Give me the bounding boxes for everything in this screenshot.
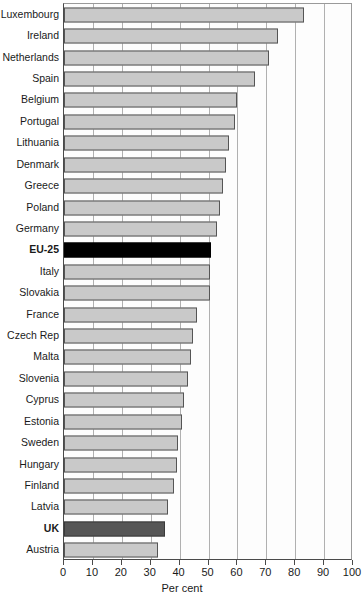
bar-row	[64, 368, 351, 389]
category-label-greece: Greece	[25, 179, 59, 191]
bar-row	[64, 390, 351, 411]
category-label-belgium: Belgium	[21, 93, 59, 105]
bar-rows	[64, 4, 351, 559]
tick-mark-80	[294, 560, 295, 565]
tick-mark-100	[352, 560, 353, 565]
bar-ireland	[64, 29, 278, 44]
bar-lithuania	[64, 136, 229, 151]
tick-mark-90	[323, 560, 324, 565]
tick-mark-30	[150, 560, 151, 565]
bar-row	[64, 133, 351, 154]
bar-row	[64, 197, 351, 218]
category-label-netherlands: Netherlands	[2, 51, 59, 63]
bar-row	[64, 154, 351, 175]
plot-area	[63, 3, 352, 560]
category-label-spain: Spain	[32, 72, 59, 84]
tick-label-100: 100	[343, 566, 361, 578]
tick-label-0: 0	[60, 566, 66, 578]
bar-row	[64, 240, 351, 261]
bar-row	[64, 261, 351, 282]
category-label-sweden: Sweden	[21, 436, 59, 448]
category-label-slovenia: Slovenia	[19, 372, 59, 384]
tick-label-30: 30	[144, 566, 156, 578]
bar-greece	[64, 179, 223, 194]
category-label-ireland: Ireland	[27, 29, 59, 41]
bar-france	[64, 307, 197, 322]
category-label-czech-rep: Czech Rep	[7, 329, 59, 341]
category-label-estonia: Estonia	[24, 415, 59, 427]
category-label-hungary: Hungary	[19, 458, 59, 470]
bar-belgium	[64, 93, 237, 108]
tick-label-60: 60	[230, 566, 242, 578]
bar-row	[64, 475, 351, 496]
bar-row	[64, 68, 351, 89]
category-label-germany: Germany	[16, 222, 59, 234]
bar-row	[64, 283, 351, 304]
bar-eu-25	[64, 243, 211, 258]
bar-estonia	[64, 414, 182, 429]
bar-slovakia	[64, 286, 210, 301]
category-label-latvia: Latvia	[31, 500, 59, 512]
tick-mark-40	[179, 560, 180, 565]
category-axis-labels: LuxembourgIrelandNetherlandsSpainBelgium…	[0, 3, 61, 560]
category-label-poland: Poland	[26, 201, 59, 213]
category-label-italy: Italy	[40, 265, 59, 277]
tick-mark-10	[92, 560, 93, 565]
tick-label-10: 10	[86, 566, 98, 578]
category-label-finland: Finland	[25, 479, 59, 491]
bar-row	[64, 497, 351, 518]
bar-uk	[64, 521, 165, 536]
bar-row	[64, 432, 351, 453]
bar-row	[64, 325, 351, 346]
bar-germany	[64, 221, 217, 236]
tick-mark-20	[121, 560, 122, 565]
bar-row	[64, 175, 351, 196]
bar-row	[64, 411, 351, 432]
bar-malta	[64, 350, 191, 365]
bar-portugal	[64, 114, 235, 129]
bar-hungary	[64, 457, 177, 472]
bar-poland	[64, 200, 220, 215]
bar-luxembourg	[64, 7, 304, 22]
tick-mark-50	[208, 560, 209, 565]
tick-label-20: 20	[115, 566, 127, 578]
tick-mark-60	[236, 560, 237, 565]
bar-czech-rep	[64, 329, 193, 344]
bar-slovenia	[64, 371, 188, 386]
category-label-portugal: Portugal	[20, 115, 59, 127]
bar-row	[64, 347, 351, 368]
bar-cyprus	[64, 393, 184, 408]
category-label-slovakia: Slovakia	[19, 286, 59, 298]
category-label-austria: Austria	[26, 543, 59, 555]
category-label-france: France	[26, 308, 59, 320]
bar-row	[64, 518, 351, 539]
tick-label-90: 90	[317, 566, 329, 578]
bar-row	[64, 454, 351, 475]
bar-row	[64, 90, 351, 111]
tick-label-70: 70	[259, 566, 271, 578]
tick-mark-70	[265, 560, 266, 565]
bar-latvia	[64, 500, 168, 515]
category-label-malta: Malta	[33, 350, 59, 362]
bar-row	[64, 111, 351, 132]
bar-row	[64, 4, 351, 25]
category-label-denmark: Denmark	[16, 158, 59, 170]
tick-label-80: 80	[288, 566, 300, 578]
bar-austria	[64, 543, 158, 558]
category-label-lithuania: Lithuania	[16, 136, 59, 148]
bar-row	[64, 218, 351, 239]
bar-row	[64, 25, 351, 46]
tick-label-50: 50	[201, 566, 213, 578]
bar-chart: LuxembourgIrelandNetherlandsSpainBelgium…	[0, 0, 364, 600]
category-label-eu-25: EU-25	[29, 243, 59, 255]
bar-netherlands	[64, 50, 269, 65]
bar-row	[64, 47, 351, 68]
category-label-uk: UK	[44, 522, 59, 534]
bar-row	[64, 540, 351, 561]
bar-italy	[64, 264, 210, 279]
bar-denmark	[64, 157, 226, 172]
x-axis-title: Per cent	[0, 582, 364, 594]
bar-row	[64, 304, 351, 325]
tick-mark-0	[63, 560, 64, 565]
category-label-luxembourg: Luxembourg	[1, 8, 59, 20]
